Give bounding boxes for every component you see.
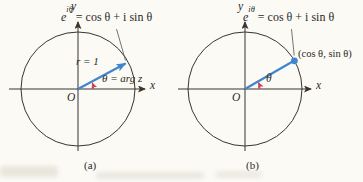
formula-exponent-a: iθ [66,5,72,14]
angle-arc-b [259,83,260,89]
caption-b: (b) [246,160,259,171]
euler-formula-a: eiθ= cos θ + i sin θ [61,10,152,23]
figure-graphics [0,0,363,182]
origin-label-b: O [232,92,240,104]
euler-formula-b: eiθ= cos θ + i sin θ [243,10,334,23]
page-bleed-smudge [216,171,262,178]
diagram-b [178,22,311,151]
formula-leader-line-a [117,29,126,61]
diagram-a [9,22,145,151]
circle-point-dot [291,57,298,64]
formula-rest-b: = cos θ + i sin θ [258,10,334,24]
caption-a: (a) [84,160,96,171]
x-axis-label-a: x [150,80,155,92]
page-bleed-smudge [0,166,58,177]
euler-formula-figure: y x eiθ= cos θ + i sin θ r = 1 θ = arg z… [0,0,363,182]
radius-label-a: r = 1 [76,56,99,67]
formula-rest-a: = cos θ + i sin θ [76,10,152,24]
origin-label-a: O [67,92,75,104]
page-bleed-smudge [96,172,204,179]
formula-exponent-b: iθ [248,5,254,14]
angle-label-a: θ = arg z [102,73,142,84]
angle-label-b: θ [266,73,272,85]
formula-leader-line-b [292,29,295,56]
point-coordinates-label: (cos θ, sin θ) [298,49,352,60]
x-axis-label-b: x [316,80,321,92]
angle-arc-a [92,83,93,89]
